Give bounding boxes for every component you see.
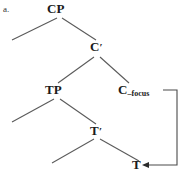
- movement-arrowhead: [142, 162, 149, 168]
- syntax-tree-figure: a. CP C′ TP C–focus T′ T: [0, 0, 186, 178]
- focus-feature-subscript: –focus: [128, 89, 150, 98]
- tree-node-cp: CP: [47, 2, 65, 15]
- branch-tbar-left: [52, 139, 94, 163]
- branch-tp-left: [12, 99, 54, 122]
- node-c-bar-head: C: [90, 39, 100, 54]
- branch-cp-left: [12, 18, 57, 40]
- branch-cp-cbar: [62, 18, 96, 40]
- branch-tp-tbar: [60, 99, 96, 124]
- example-letter-label: a.: [3, 5, 9, 14]
- tree-node-tp: TP: [45, 83, 62, 96]
- tree-node-t-bar: T′: [90, 124, 102, 137]
- tree-node-t: T: [132, 158, 141, 171]
- branch-cbar-cfocus: [100, 57, 129, 83]
- tree-branches: [0, 0, 186, 178]
- prime-mark: ′: [99, 125, 102, 137]
- node-c-focus-head: C: [118, 82, 128, 97]
- tree-node-c-focus: C–focus: [118, 83, 149, 96]
- node-t-bar-head: T: [90, 123, 99, 138]
- prime-mark: ′: [100, 41, 103, 53]
- tree-node-c-bar: C′: [90, 40, 103, 53]
- movement-arrow-path: [148, 90, 177, 165]
- branch-cbar-tp: [58, 57, 94, 83]
